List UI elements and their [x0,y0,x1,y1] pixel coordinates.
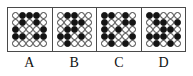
empty-circle [26,26,33,33]
filled-circle [12,33,19,40]
filled-circle [129,19,136,26]
empty-circle [108,19,115,26]
empty-circle [40,19,47,26]
empty-circle [12,12,19,19]
empty-circle [129,26,136,33]
filled-circle [71,12,78,19]
filled-circle [101,12,108,19]
panel-c[interactable] [97,8,142,51]
empty-circle [33,26,40,33]
filled-circle [153,19,160,26]
empty-circle [167,33,174,40]
empty-circle [129,12,136,19]
empty-circle [26,19,33,26]
dot-grid-d [146,12,181,47]
empty-circle [57,19,64,26]
empty-circle [57,40,64,47]
empty-circle [26,33,33,40]
panel-b[interactable] [53,8,98,51]
filled-circle [174,19,181,26]
filled-circle [26,12,33,19]
panel-label-b: B [52,53,97,73]
filled-circle [160,26,167,33]
empty-circle [33,40,40,47]
filled-circle [64,40,71,47]
filled-circle [33,33,40,40]
panel-a[interactable] [8,8,53,51]
filled-circle [108,33,115,40]
panel-label-row: A B C D [7,53,186,73]
panel-d[interactable] [142,8,186,51]
empty-circle [122,26,129,33]
empty-circle [85,26,92,33]
filled-circle [64,26,71,33]
filled-circle [12,26,19,33]
pattern-choice-figure: A B C D [0,0,193,76]
empty-circle [129,40,136,47]
empty-circle [57,26,64,33]
filled-circle [146,33,153,40]
filled-circle [64,12,71,19]
empty-circle [153,26,160,33]
filled-circle [57,33,64,40]
filled-circle [167,40,174,47]
empty-circle [85,12,92,19]
empty-circle [115,33,122,40]
empty-circle [12,40,19,47]
filled-circle [40,26,47,33]
dot-grid-a [12,12,47,47]
filled-circle [101,33,108,40]
empty-circle [19,40,26,47]
empty-circle [26,40,33,47]
empty-circle [78,40,85,47]
filled-circle [33,19,40,26]
filled-circle [122,12,129,19]
filled-circle [71,26,78,33]
empty-circle [19,26,26,33]
empty-circle [101,40,108,47]
filled-circle [160,19,167,26]
panel-label-c: C [97,53,142,73]
empty-circle [85,33,92,40]
filled-circle [33,12,40,19]
filled-circle [153,40,160,47]
filled-circle [19,19,26,26]
empty-circle [108,26,115,33]
empty-circle [167,12,174,19]
empty-circle [64,19,71,26]
empty-circle [146,26,153,33]
filled-circle [108,12,115,19]
empty-circle [115,19,122,26]
empty-circle [115,40,122,47]
filled-circle [115,26,122,33]
empty-circle [71,33,78,40]
empty-circle [174,12,181,19]
filled-circle [160,33,167,40]
filled-circle [40,33,47,40]
filled-circle [78,33,85,40]
filled-circle [78,19,85,26]
empty-circle [174,40,181,47]
empty-circle [85,40,92,47]
filled-circle [167,26,174,33]
filled-circle [153,33,160,40]
filled-circle [101,26,108,33]
empty-circle [160,40,167,47]
empty-circle [160,12,167,19]
empty-circle [146,40,153,47]
filled-circle [19,12,26,19]
filled-circle [174,33,181,40]
empty-circle [78,12,85,19]
empty-circle [71,40,78,47]
dot-grid-b [57,12,92,47]
empty-circle [57,12,64,19]
panel-strip [7,7,186,52]
empty-circle [78,26,85,33]
filled-circle [129,33,136,40]
empty-circle [174,26,181,33]
empty-circle [115,12,122,19]
filled-circle [64,33,71,40]
empty-circle [122,33,129,40]
empty-circle [40,40,47,47]
filled-circle [153,12,160,19]
